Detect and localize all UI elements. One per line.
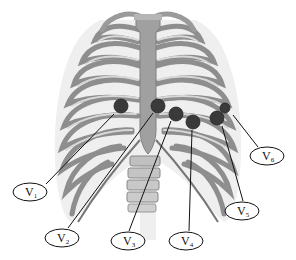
electrode-v6: [220, 103, 230, 113]
rib-cage: [55, 14, 241, 240]
label-v3: V3: [111, 232, 145, 250]
label-subscript: 3: [132, 241, 136, 249]
electrode-v4: [186, 115, 200, 129]
electrode-v1: [114, 99, 128, 113]
label-subscript: 5: [246, 211, 250, 219]
electrode-v2: [151, 99, 165, 113]
label-subscript: 2: [66, 238, 70, 246]
rib-cage-diagram: V1V2V3V4V5V6: [0, 0, 296, 260]
label-subscript: 1: [34, 192, 38, 200]
label-subscript: 4: [190, 241, 194, 249]
label-v5: V5: [225, 202, 259, 220]
label-v1: V1: [13, 183, 47, 201]
label-v6: V6: [250, 147, 284, 165]
electrode-v3: [169, 107, 183, 121]
label-v4: V4: [169, 232, 203, 250]
electrode-v5: [210, 111, 224, 125]
label-v2: V2: [45, 229, 79, 247]
manubrium-top: [134, 14, 162, 20]
label-subscript: 6: [271, 156, 275, 164]
